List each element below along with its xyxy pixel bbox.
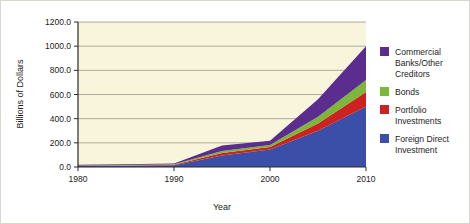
chart-page-frame: 0.0200.0400.0600.0800.01000.01200.0 1980… <box>0 0 470 224</box>
legend-label-foreign-direct-investment: Foreign Direct <box>395 134 450 144</box>
chart-legend: CommercialBanks/OtherCreditorsBondsPortf… <box>380 47 450 155</box>
x-tick-label: 2010 <box>357 174 376 184</box>
legend-label-commercial-banks: Banks/Other <box>395 58 443 68</box>
legend-swatch-commercial-banks <box>380 47 389 56</box>
legend-label-portfolio-investments: Portfolio <box>395 105 427 115</box>
legend-swatch-bonds <box>380 87 389 96</box>
y-tick-label: 800.0 <box>50 65 72 75</box>
legend-label-bonds: Bonds <box>395 87 419 97</box>
y-tick-label: 200.0 <box>50 138 72 148</box>
legend-label-portfolio-investments: Investments <box>395 116 441 126</box>
x-tick-label: 1990 <box>165 174 184 184</box>
y-tick-label: 600.0 <box>50 90 72 100</box>
legend-label-foreign-direct-investment: Investment <box>395 145 438 155</box>
legend-swatch-foreign-direct-investment <box>380 134 389 143</box>
x-tick-label: 1980 <box>69 174 88 184</box>
y-tick-label: 1000.0 <box>45 41 71 51</box>
x-tick-label: 2000 <box>261 174 280 184</box>
x-axis-ticks: 1980199020002010 <box>69 167 376 184</box>
legend-swatch-portfolio-investments <box>380 105 389 114</box>
legend-label-commercial-banks: Creditors <box>395 69 430 79</box>
y-axis-ticks: 0.0200.0400.0600.0800.01000.01200.0 <box>45 17 78 172</box>
legend-label-commercial-banks: Commercial <box>395 47 441 57</box>
chart-svg: 0.0200.0400.0600.0800.01000.01200.0 1980… <box>1 1 470 224</box>
y-tick-label: 0.0 <box>59 162 71 172</box>
stacked-area-chart: 0.0200.0400.0600.0800.01000.01200.0 1980… <box>1 1 469 223</box>
y-tick-label: 1200.0 <box>45 17 71 27</box>
y-tick-label: 400.0 <box>50 114 72 124</box>
x-axis-title: Year <box>213 202 231 212</box>
y-axis-title: Billions of Dollars <box>15 59 25 129</box>
